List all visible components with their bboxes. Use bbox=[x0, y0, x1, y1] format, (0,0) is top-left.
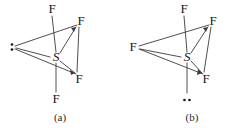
molecule-diagram-a: F F F F S (a) bbox=[0, 0, 118, 128]
molecule-diagram-b: F F F F S (b) bbox=[117, 0, 235, 128]
bond-s-to-f-axial-top bbox=[52, 16, 56, 52]
frame-edge-f-upper-to-f-lower bbox=[77, 27, 79, 72]
lone-pair-dot-2 bbox=[11, 48, 14, 51]
structure-a-lines bbox=[0, 0, 118, 128]
bond-s-to-f-axial-top bbox=[184, 16, 187, 52]
atom-label-f-equatorial-left-b: F bbox=[126, 40, 140, 53]
lone-pair-axial bbox=[183, 99, 191, 102]
panel-caption-b: (b) bbox=[172, 112, 212, 123]
atom-label-f-equatorial-lower-right-b: F bbox=[199, 72, 213, 85]
frame-edge-f-left-to-f-upper bbox=[139, 25, 209, 46]
frame-edge-f-upper-to-f-lower bbox=[204, 27, 211, 72]
atom-label-f-equatorial-upper-right-a: F bbox=[74, 14, 88, 27]
arrowhead-f-eq-upper-right bbox=[203, 27, 208, 32]
bond-s-to-f-eq-left bbox=[140, 49, 181, 57]
lone-pair-dot-1 bbox=[183, 99, 186, 102]
arrowhead-f-eq-upper-right bbox=[71, 27, 76, 32]
atom-label-f-axial-bottom-a: F bbox=[49, 92, 63, 105]
frame-edge-lp-to-f-lower bbox=[15, 49, 76, 74]
bond-s-to-lone-pair bbox=[16, 48, 50, 57]
atom-label-f-equatorial-lower-right-a: F bbox=[72, 72, 86, 85]
atom-label-f-axial-top-a: F bbox=[45, 2, 59, 15]
frame-edge-lp-to-f-upper bbox=[15, 25, 77, 46]
atom-label-f-axial-top-b: F bbox=[177, 2, 191, 15]
panel-caption-a: (a) bbox=[40, 112, 80, 123]
atom-label-sulfur-a: S bbox=[49, 50, 63, 63]
figure-root: F F F F S (a) bbox=[0, 0, 235, 128]
lone-pair-dot-1 bbox=[11, 43, 14, 46]
lone-pair-equatorial bbox=[11, 43, 14, 51]
atom-label-sulfur-b: S bbox=[180, 50, 194, 63]
atom-label-f-equatorial-upper-right-b: F bbox=[206, 14, 220, 27]
lone-pair-dot-2 bbox=[188, 99, 191, 102]
